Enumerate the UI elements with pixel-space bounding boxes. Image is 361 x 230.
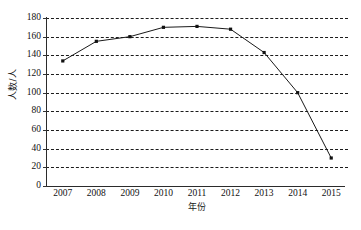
y-tick-label: 40 bbox=[17, 144, 41, 154]
data-point-marker bbox=[195, 25, 198, 28]
y-tick-label: 160 bbox=[17, 32, 41, 42]
data-point-marker bbox=[263, 51, 266, 54]
data-point-marker bbox=[162, 26, 165, 29]
gridline bbox=[46, 111, 348, 112]
y-tick-label: 80 bbox=[17, 106, 41, 116]
gridline bbox=[46, 167, 348, 168]
y-tick-label: 100 bbox=[17, 88, 41, 98]
data-point-marker bbox=[95, 40, 98, 43]
y-tick-mark bbox=[43, 55, 47, 56]
y-tick-mark bbox=[43, 93, 47, 94]
y-tick-label: 60 bbox=[17, 125, 41, 135]
x-axis-line bbox=[46, 186, 345, 187]
y-tick-label: 20 bbox=[17, 162, 41, 172]
gridline bbox=[46, 93, 348, 94]
y-tick-mark bbox=[43, 18, 47, 19]
data-point-marker bbox=[61, 59, 64, 62]
line-chart: 人数/人 020406080100120140160180 2007200820… bbox=[0, 0, 361, 230]
gridline bbox=[46, 37, 348, 38]
data-point-marker bbox=[229, 28, 232, 31]
y-tick-label: 140 bbox=[17, 50, 41, 60]
data-point-marker bbox=[330, 156, 333, 159]
y-tick-mark bbox=[43, 130, 47, 131]
gridline bbox=[46, 149, 348, 150]
x-tick-label: 2015 bbox=[309, 189, 353, 199]
y-tick-mark bbox=[43, 149, 47, 150]
y-tick-label: 120 bbox=[17, 69, 41, 79]
y-axis-tick-labels: 020406080100120140160180 bbox=[17, 0, 41, 230]
y-tick-mark bbox=[43, 111, 47, 112]
data-series-line bbox=[46, 18, 348, 186]
y-tick-mark bbox=[43, 167, 47, 168]
y-tick-mark bbox=[43, 37, 47, 38]
gridline bbox=[46, 55, 348, 56]
x-axis-title: 年份 bbox=[46, 200, 348, 213]
y-tick-label: 0 bbox=[17, 181, 41, 191]
gridline bbox=[46, 130, 348, 131]
gridline bbox=[46, 18, 348, 19]
y-tick-mark bbox=[43, 186, 47, 187]
gridline bbox=[46, 74, 348, 75]
y-tick-label: 180 bbox=[17, 13, 41, 23]
y-tick-mark bbox=[43, 74, 47, 75]
plot-area bbox=[46, 18, 348, 186]
